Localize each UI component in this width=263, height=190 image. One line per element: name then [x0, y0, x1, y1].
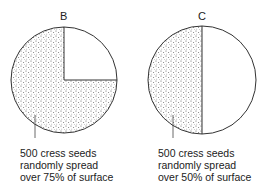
- title-b: B: [60, 10, 67, 22]
- title-c: C: [198, 10, 206, 22]
- caption-b-line-1: 500 cress seeds: [20, 147, 113, 159]
- caption-c-line-1: 500 cress seeds: [158, 147, 251, 159]
- caption-b-line-3: over 75% of surface: [20, 171, 113, 183]
- caption-b: 500 cress seeds randomly spread over 75%…: [20, 147, 113, 183]
- circle-c-stippled-area: [148, 26, 202, 134]
- circle-b: [11, 27, 117, 138]
- caption-c-line-3: over 50% of surface: [158, 171, 251, 183]
- caption-b-line-2: randomly spread: [20, 159, 113, 171]
- circle-c: [148, 26, 256, 138]
- caption-c-line-2: randomly spread: [158, 159, 251, 171]
- caption-c: 500 cress seeds randomly spread over 50%…: [158, 147, 251, 183]
